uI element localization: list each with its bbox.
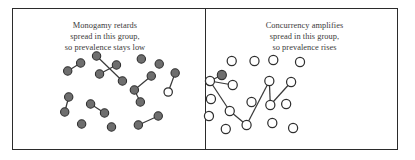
panel-monogamy: Monogamy retards spread in this group, s… [13, 9, 205, 149]
graph-node-infected [92, 52, 100, 60]
graph-node-susceptible [250, 56, 259, 65]
graph-node-infected [130, 86, 138, 94]
graph-node-susceptible [289, 123, 298, 132]
graph-node-infected [171, 69, 179, 77]
graph-node-infected [76, 59, 84, 67]
graph-node-susceptible [265, 76, 274, 85]
graph-node-susceptible [164, 88, 172, 96]
panel-concurrency: Concurrency amplifies spread in this gro… [205, 9, 397, 149]
graph-node-susceptible [295, 57, 304, 66]
graph-node-susceptible [227, 56, 236, 65]
graph-node-susceptible [204, 111, 213, 120]
graph-node-infected [100, 109, 108, 117]
network-graph-monogamy [13, 9, 205, 149]
graph-node-infected [65, 93, 73, 101]
graph-node-infected [77, 120, 85, 128]
graph-node-infected [64, 67, 72, 75]
graph-node-susceptible [205, 76, 214, 85]
graph-node-infected [107, 123, 115, 131]
graph-node-susceptible [221, 124, 230, 133]
graph-node-infected [86, 100, 94, 108]
graph-node-susceptible [268, 118, 277, 127]
graph-node-susceptible [287, 77, 296, 86]
graph-node-susceptible [225, 106, 234, 115]
graph-node-infected [136, 98, 144, 106]
figure-frame: Monogamy retards spread in this group, s… [12, 8, 398, 150]
graph-node-susceptible [242, 120, 251, 129]
graph-node-infected [147, 72, 155, 80]
graph-node-infected [137, 55, 145, 63]
graph-node-infected [95, 70, 103, 78]
graph-node-infected [155, 60, 163, 68]
graph-node-susceptible [282, 99, 291, 108]
network-graph-concurrency [206, 9, 397, 149]
graph-node-susceptible [228, 80, 237, 89]
graph-node-susceptible [247, 97, 256, 106]
graph-node-infected [134, 121, 142, 129]
graph-node-infected [217, 70, 226, 79]
graph-node-susceptible [269, 55, 278, 64]
graph-node-infected [154, 112, 162, 120]
graph-node-susceptible [206, 94, 215, 103]
figure-root: Monogamy retards spread in this group, s… [0, 0, 415, 160]
graph-node-infected [61, 108, 69, 116]
graph-node-susceptible [266, 100, 275, 109]
graph-node-infected [112, 61, 120, 69]
graph-node-infected [118, 77, 126, 85]
